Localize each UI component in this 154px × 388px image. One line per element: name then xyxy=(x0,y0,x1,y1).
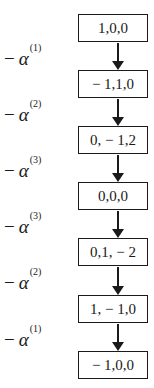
arrow-down-icon xyxy=(112,99,124,126)
arrow-down-icon xyxy=(112,43,124,70)
edge-label: −α(3) xyxy=(4,216,41,238)
node-7: − 1,0,0 xyxy=(78,351,148,379)
alpha-symbol: α xyxy=(19,216,29,237)
node-label: 1, − 1,0 xyxy=(90,301,136,318)
node-6: 1, − 1,0 xyxy=(78,295,148,323)
edge-label: −α(1) xyxy=(4,48,41,70)
arrow-down-icon xyxy=(112,267,124,295)
node-label: 0,0,0 xyxy=(98,188,128,205)
node-label: 0, − 1,2 xyxy=(90,132,136,149)
arrow-down-icon xyxy=(112,211,124,238)
edge-label: −α(1) xyxy=(4,329,41,351)
node-label: − 1,1,0 xyxy=(92,76,134,93)
node-4: 0,0,0 xyxy=(78,182,148,210)
edge-label: −α(2) xyxy=(4,272,41,294)
alpha-symbol: α xyxy=(19,329,29,350)
alpha-symbol: α xyxy=(19,48,29,69)
arrow-down-icon xyxy=(112,324,124,351)
edge-label: −α(2) xyxy=(4,104,41,126)
alpha-symbol: α xyxy=(19,160,29,181)
alpha-symbol: α xyxy=(19,104,29,125)
node-2: − 1,1,0 xyxy=(78,70,148,98)
node-label: 0,1, − 2 xyxy=(90,244,136,261)
alpha-symbol: α xyxy=(19,272,29,293)
node-label: − 1,0,0 xyxy=(92,357,134,374)
edge-label: −α(3) xyxy=(4,160,41,182)
node-5: 0,1, − 2 xyxy=(78,238,148,266)
node-label: 1,0,0 xyxy=(98,20,128,37)
node-1: 1,0,0 xyxy=(78,14,148,42)
arrow-down-icon xyxy=(112,155,124,182)
node-3: 0, − 1,2 xyxy=(78,126,148,154)
